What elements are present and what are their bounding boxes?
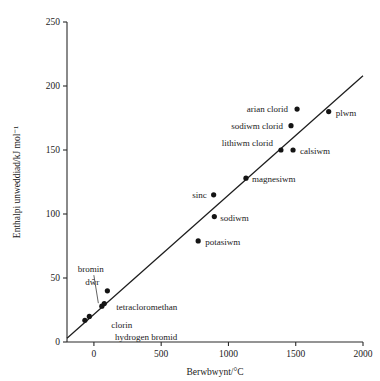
point-label: sodiwm xyxy=(220,213,249,223)
y-tick-label: 200 xyxy=(46,81,61,91)
data-point[interactable] xyxy=(212,214,217,219)
y-tick-label: 0 xyxy=(55,337,60,347)
point-label: magnesiwm xyxy=(252,174,295,184)
point-label: calsiwm xyxy=(300,146,330,156)
point-label: sodiwm clorid xyxy=(231,121,283,131)
chart-canvas: 0501001502002500500100015002000 hydrogen… xyxy=(0,0,380,381)
scatter-chart: 0501001502002500500100015002000 hydrogen… xyxy=(0,0,380,381)
x-axis-title: Berwbwynt/°C xyxy=(186,367,243,377)
point-label: sinc xyxy=(192,190,207,200)
data-point[interactable] xyxy=(82,318,87,323)
x-tick-label: 1500 xyxy=(286,349,305,359)
x-tick-label: 1000 xyxy=(219,349,238,359)
data-point[interactable] xyxy=(243,176,248,181)
point-label: clorin xyxy=(111,320,132,330)
x-tick-label: 2000 xyxy=(354,349,373,359)
data-point[interactable] xyxy=(211,192,216,197)
trend-line xyxy=(67,76,363,338)
point-label: potasiwm xyxy=(205,237,240,247)
y-axis-title: Enthalpi unweddiad/kJ mol⁻¹ xyxy=(12,126,22,238)
y-tick-label: 250 xyxy=(46,17,61,27)
data-point[interactable] xyxy=(294,106,299,111)
data-point[interactable] xyxy=(288,123,293,128)
data-point[interactable] xyxy=(196,238,201,243)
point-label: arian clorid xyxy=(247,104,289,114)
data-point[interactable] xyxy=(87,314,92,319)
y-tick-label: 100 xyxy=(46,209,61,219)
data-point[interactable] xyxy=(326,109,331,114)
y-tick-label: 50 xyxy=(51,273,61,283)
y-tick-label: 150 xyxy=(46,145,61,155)
data-point[interactable] xyxy=(278,147,283,152)
axes-group: 0501001502002500500100015002000 xyxy=(46,17,373,359)
point-label: bromin xyxy=(78,264,104,274)
point-label: dŵr xyxy=(85,277,99,287)
point-label: plwm xyxy=(336,108,357,118)
data-point[interactable] xyxy=(102,301,107,306)
x-tick-label: 0 xyxy=(92,349,97,359)
point-label: lithiwm clorid xyxy=(222,138,274,148)
point-label: hydrogen bromid xyxy=(115,332,178,342)
point-label: tetracloromethan xyxy=(116,302,177,312)
x-tick-label: 500 xyxy=(154,349,169,359)
data-point[interactable] xyxy=(105,288,110,293)
data-point[interactable] xyxy=(290,147,295,152)
point-labels-group: hydrogen bromidclorinbromintetracloromet… xyxy=(78,104,356,342)
trendline xyxy=(67,76,363,338)
